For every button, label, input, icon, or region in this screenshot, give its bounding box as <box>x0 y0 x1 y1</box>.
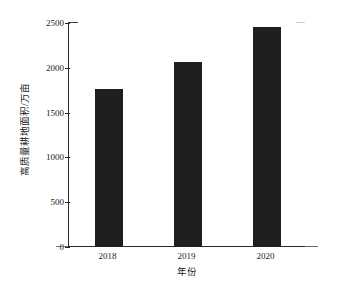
y-axis-tick-label: 1500 <box>46 108 64 117</box>
x-axis-title: 年份 <box>68 268 305 278</box>
x-axis-tick-label: 2018 <box>99 252 117 261</box>
x-axis-tick-labels: 201820192020 <box>68 252 305 266</box>
y-axis-tick-mark <box>65 157 70 158</box>
y-axis-tick-label: 2500 <box>46 19 64 28</box>
bars-layer <box>69 23 306 247</box>
y-axis-tick-label: 2000 <box>46 63 64 72</box>
y-axis-tick-mark <box>65 23 70 24</box>
y-axis-tick-mark <box>65 68 70 69</box>
bar-chart: 高质量耕地面积/万亩 05001000150020002500 20182019… <box>0 0 337 290</box>
y-axis-tick-mark <box>65 113 70 114</box>
y-axis-tick-label: 1000 <box>46 153 64 162</box>
x-axis-tick-label: 2020 <box>257 252 275 261</box>
plot-area <box>68 23 305 247</box>
y-axis-tick-mark <box>65 247 70 248</box>
y-axis-tick-label: 500 <box>51 198 65 207</box>
y-axis-tick-labels: 05001000150020002500 <box>28 23 64 247</box>
y-axis-tick-mark <box>65 202 70 203</box>
x-axis-tick-label: 2019 <box>178 252 196 261</box>
bar <box>253 27 281 247</box>
bar <box>174 62 202 247</box>
bar <box>95 89 123 247</box>
